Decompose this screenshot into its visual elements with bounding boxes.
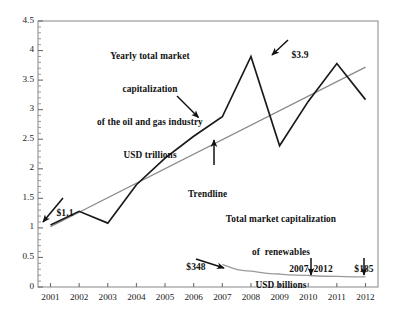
callout-renewables-start: $348 [177, 240, 215, 296]
y-axis-tick-label: 1 [0, 221, 34, 231]
annotation-oilgas-line-2: capitalization [84, 84, 216, 95]
annotation-oilgas-line-4: USD trillions [84, 150, 216, 161]
y-axis-major-ticks [38, 21, 43, 287]
callout-period-text: 2007–2012 [280, 264, 342, 275]
y-axis-tick-label: 1.5 [0, 192, 34, 202]
annotation-oilgas-line-1: Yearly total market [84, 51, 216, 62]
y-axis-tick-label: 4.5 [0, 15, 34, 25]
y-axis-tick-label: 0.5 [0, 251, 34, 261]
annotation-oilgas-line-3: of the oil and gas industry [84, 117, 216, 128]
y-axis-tick-label: 4 [0, 44, 34, 54]
y-axis-tick-label: 0 [0, 281, 34, 291]
y-axis-tick-label: 2.5 [0, 133, 34, 143]
y-axis-tick-label: 2 [0, 162, 34, 172]
callout-renewables-end: $185 [347, 242, 381, 298]
callout-start-value-text: $1.1 [48, 208, 82, 219]
y-axis-tick-label: 3 [0, 103, 34, 113]
callout-start-value: $1.1 [48, 186, 82, 242]
callout-period: 2007–2012 [280, 242, 342, 298]
callout-renewables-start-text: $348 [177, 262, 215, 273]
x-axis-tick-label: 2012 [346, 292, 386, 302]
callout-peak-value-text: $3.9 [283, 50, 317, 61]
callout-renewables-end-text: $185 [347, 264, 381, 275]
callout-peak-value: $3.9 [283, 28, 317, 84]
annotation-renewables-line-1: Total market capitalization [207, 214, 355, 225]
annotation-oil-and-gas: Yearly total market capitalization of th… [84, 29, 216, 183]
chart-figure: Yearly total market capitalization of th… [0, 0, 393, 316]
y-axis-tick-label: 3.5 [0, 74, 34, 84]
